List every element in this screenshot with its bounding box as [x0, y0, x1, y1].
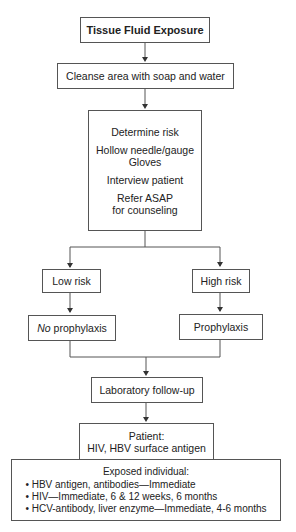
patient-detail: HIV, HBV surface antigen [87, 442, 206, 454]
determine-risk-title: Determine risk [111, 126, 179, 138]
exposed-item-hcv: • HCV-antibody, liver enzyme—Immediate, … [25, 503, 266, 515]
cleanse-node: Cleanse area with soap and water [57, 63, 234, 89]
high-risk-label: High risk [201, 275, 242, 287]
patient-node: Patient: HIV, HBV surface antigen [79, 423, 214, 460]
refer-asap-text: Refer ASAP [112, 192, 177, 204]
no-prophylaxis-node: No prophylaxis [28, 315, 116, 341]
hollow-needle-text: Hollow needle/gauge [96, 144, 194, 156]
patient-title: Patient: [129, 430, 165, 442]
lab-followup-node: Laboratory follow-up [91, 377, 203, 403]
cleanse-label: Cleanse area with soap and water [66, 70, 225, 82]
exposed-individual-node: Exposed individual: • HBV antigen, antib… [11, 459, 281, 521]
exposed-item-hiv: • HIV—Immediate, 6 & 12 weeks, 6 months [25, 491, 266, 503]
high-risk-node: High risk [192, 269, 250, 293]
start-node: Tissue Fluid Exposure [80, 17, 210, 43]
no-prophylaxis-label: prophylaxis [51, 322, 107, 334]
determine-risk-node: Determine risk Hollow needle/gauge Glove… [88, 110, 202, 231]
exposed-title: Exposed individual: [103, 466, 189, 478]
for-counseling-text: for counseling [112, 204, 177, 216]
prophylaxis-node: Prophylaxis [179, 314, 263, 340]
low-risk-label: Low risk [52, 275, 91, 287]
interview-patient-text: Interview patient [107, 174, 183, 186]
no-emphasis: No [37, 322, 50, 334]
prophylaxis-label: Prophylaxis [194, 321, 248, 333]
gloves-text: Gloves [96, 156, 194, 168]
low-risk-node: Low risk [42, 269, 101, 293]
exposed-test-list: • HBV antigen, antibodies—Immediate • HI… [25, 479, 266, 515]
start-label: Tissue Fluid Exposure [86, 24, 203, 36]
exposed-item-hbv: • HBV antigen, antibodies—Immediate [25, 479, 266, 491]
lab-followup-label: Laboratory follow-up [99, 384, 194, 396]
